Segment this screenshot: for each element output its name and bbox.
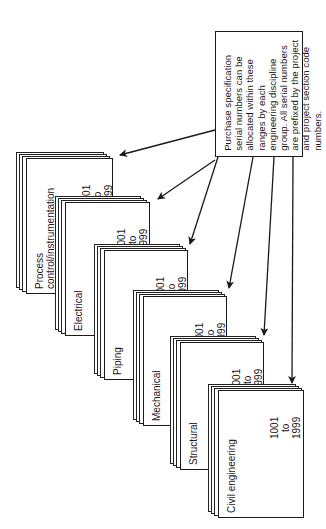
arrow-to-piping — [190, 157, 218, 244]
arrow-to-civil-engineering — [292, 157, 293, 383]
serial-number-diagram: Process control/instrumentation 6001 to … — [0, 0, 326, 529]
arrow-to-process-control — [120, 130, 215, 155]
arrow-to-mechanical — [229, 157, 253, 288]
pointer-arrows — [0, 0, 326, 529]
arrow-to-structural — [264, 157, 274, 335]
